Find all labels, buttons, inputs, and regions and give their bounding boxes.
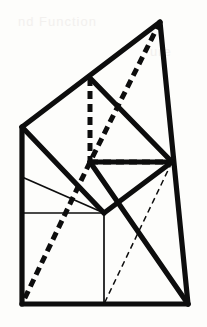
geometric-figure-svg: [0, 0, 207, 327]
thin-solid-group: [22, 177, 104, 304]
thin-left-to-center: [22, 177, 104, 213]
chord-leftupper-to-midbottom: [22, 127, 104, 213]
chord-topmid-to-rightmid: [90, 78, 172, 162]
thick-dashed-group: [22, 22, 172, 304]
figure-canvas: nd Function ure: [0, 0, 207, 327]
chord-rightmid-to-midbottom: [104, 162, 172, 213]
dashed-center-to-bottomleft: [22, 162, 90, 304]
